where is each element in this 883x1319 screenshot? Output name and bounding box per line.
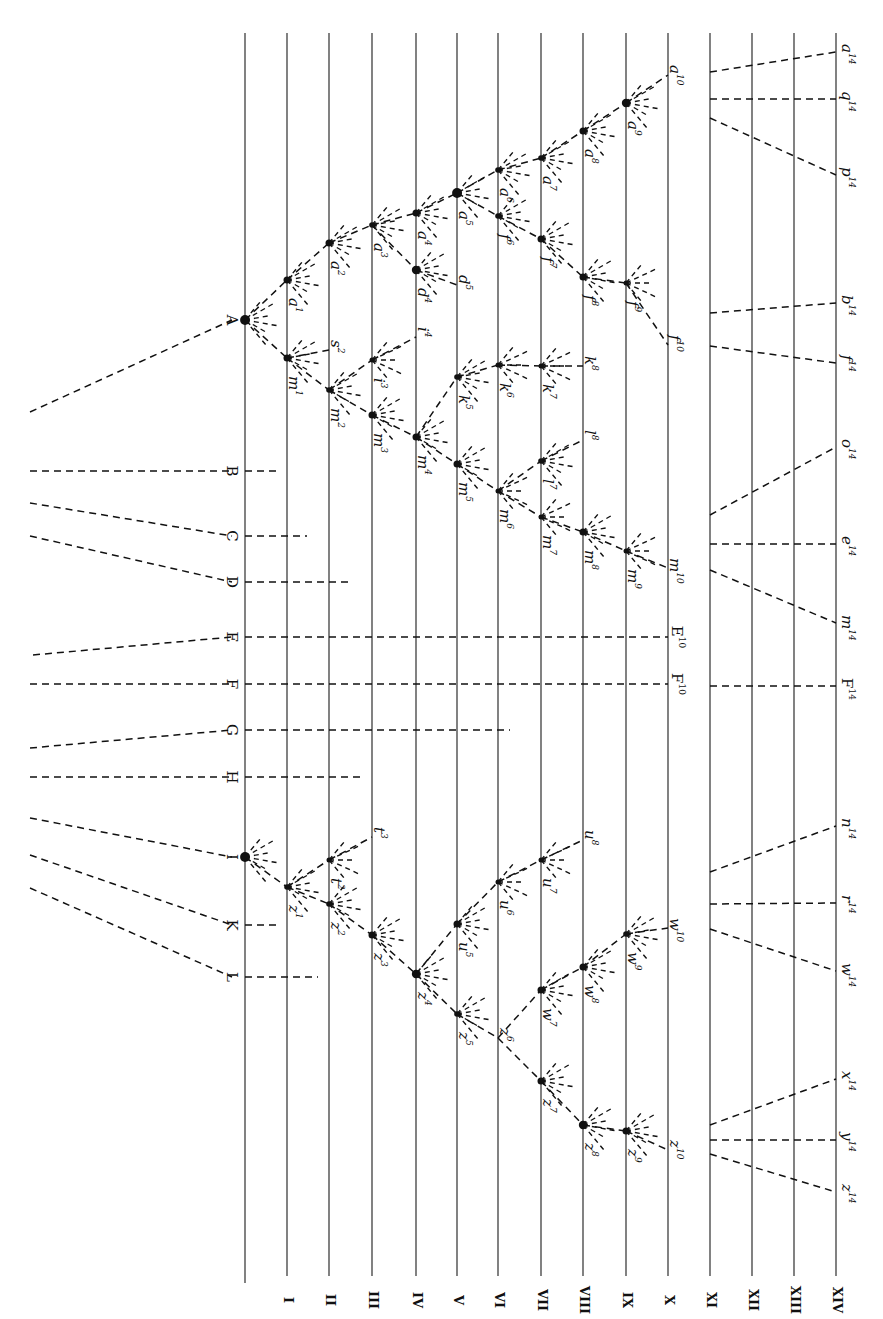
node-label: u8 [581, 830, 600, 846]
extinct-twig [583, 257, 600, 277]
node-a8 [580, 128, 587, 135]
extinct-twig [372, 208, 401, 225]
node-z3 [369, 932, 376, 939]
extinct-twig [498, 150, 515, 170]
node-label: z7 [539, 1098, 558, 1113]
node-label: f8 [581, 294, 600, 307]
branch [416, 377, 457, 437]
extinct-twig [416, 253, 445, 270]
node-f6 [495, 213, 501, 219]
extinct-twig [416, 417, 433, 437]
node-label: k8 [581, 356, 600, 371]
extinct-twig [626, 1114, 655, 1131]
node-label: a9 [624, 121, 643, 136]
extinct-twig [372, 360, 403, 374]
node-t2 [327, 858, 332, 863]
extinct-twig [287, 887, 320, 893]
gen14-lineage [710, 1154, 836, 1192]
generation-numeral: XIV [830, 1287, 845, 1314]
node-label: u5 [455, 942, 474, 958]
extinct-twig [329, 223, 346, 243]
node-m8 [580, 529, 587, 536]
node-a4 [413, 210, 420, 217]
branch [329, 904, 372, 935]
node-label: m1 [285, 376, 304, 396]
node-label: i3 [370, 378, 389, 389]
extinct-twig [498, 153, 527, 170]
branch [626, 1131, 668, 1150]
ancestor-tail [30, 503, 232, 536]
generation-numeral: V [451, 1294, 466, 1306]
branch [372, 337, 416, 360]
gen14-lineage [710, 118, 836, 175]
extinct-twig [541, 461, 574, 467]
extinct-twig [498, 170, 531, 176]
gen10-label: F10 [668, 673, 688, 695]
extinct-twig [372, 935, 405, 941]
extinct-twig [457, 997, 486, 1014]
node-z9 [623, 1128, 630, 1135]
node-f9 [624, 281, 629, 286]
ancestor-tail [30, 536, 232, 582]
generation-numeral: X [662, 1295, 677, 1306]
branch [498, 158, 541, 170]
extinct-twig [626, 531, 643, 551]
extinct-twig [245, 303, 274, 320]
generation-numeral: II [323, 1294, 338, 1306]
gen14-label: p14 [838, 167, 857, 188]
extinct-twig [541, 366, 572, 380]
node-label: a6 [496, 188, 515, 203]
extinct-twig [457, 907, 486, 924]
extinct-twig [457, 904, 474, 924]
node-label: a3 [370, 243, 389, 258]
extinct-twig [583, 260, 612, 277]
extinct-twig [457, 360, 486, 377]
branch [287, 243, 329, 280]
gen10-label: E10 [668, 626, 688, 649]
extinct-twig [583, 131, 616, 137]
branch [541, 840, 583, 860]
gen14-label: a14 [838, 44, 857, 65]
gen14-lineage [710, 929, 836, 971]
node-z1 [284, 884, 290, 890]
ancestor-label: L [223, 972, 241, 982]
node-k7 [539, 364, 544, 369]
gen14-label: e14 [838, 536, 857, 557]
extinct-twig [457, 924, 490, 930]
node-label: m9 [624, 569, 643, 589]
branch [583, 532, 626, 551]
extinct-twig [498, 882, 515, 902]
gen14-label: F14 [838, 678, 857, 700]
node-m1 [284, 355, 291, 362]
node-label: l8 [581, 430, 600, 441]
node-m3 [369, 412, 376, 419]
extinct-twig [372, 225, 405, 231]
ancestor-label: C [223, 530, 241, 541]
extinct-twig [626, 1111, 643, 1131]
node-a9 [622, 99, 630, 107]
labels: ABCDEFGHIKLa1a2a3a4a5a6a7a8a9a10d4d5f6f7… [223, 44, 857, 1204]
extinct-twig [626, 551, 643, 571]
node-label: f7 [539, 256, 558, 269]
node-label: f10 [666, 334, 685, 352]
ancestor-tail [33, 637, 232, 655]
extinct-twig [416, 213, 449, 219]
generation-lines [245, 33, 836, 1283]
extinct-twig [626, 934, 659, 940]
extinct-twig [416, 270, 449, 276]
extinct-twig [329, 840, 346, 860]
node-label: z9 [624, 1148, 643, 1163]
branch [329, 225, 372, 243]
darwin-tree-diagram: ABCDEFGHIKLa1a2a3a4a5a6a7a8a9a10d4d5f6f7… [0, 0, 883, 1319]
node-u5 [454, 921, 461, 928]
generation-numeral: XI [704, 1292, 719, 1308]
extinct-twig [626, 537, 657, 551]
ancestor-tail [30, 320, 232, 412]
branch [583, 1125, 626, 1131]
extinct-twig [372, 395, 389, 415]
ancestor-label: D [223, 576, 241, 588]
branch [583, 277, 626, 283]
extinct-twig [457, 444, 474, 464]
node-label: z10 [666, 1139, 685, 1160]
gen14-label: w14 [838, 963, 857, 988]
